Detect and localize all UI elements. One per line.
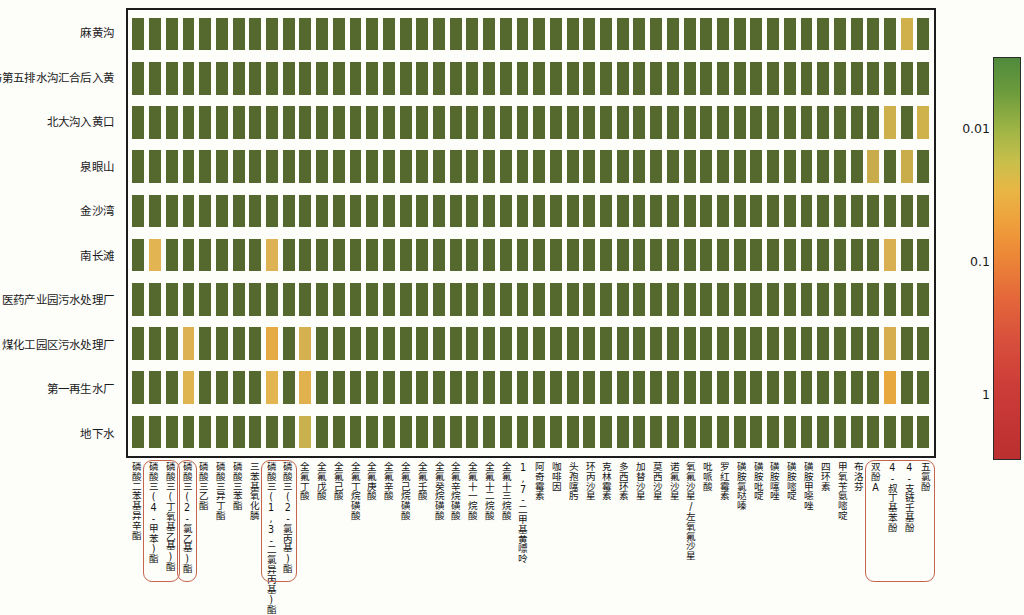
heatmap-cell <box>884 239 896 272</box>
heatmap-cell <box>784 416 796 449</box>
heatmap-cell <box>583 150 595 183</box>
heatmap-cell <box>149 18 161 51</box>
heatmap-cell <box>750 239 762 272</box>
heatmap-cell <box>550 327 562 360</box>
heatmap-cell <box>299 18 311 51</box>
row-label: 医药产业园污水处理厂 <box>0 277 120 322</box>
heatmap-cell <box>433 371 445 404</box>
heatmap-cell <box>383 416 395 449</box>
heatmap-cell <box>884 18 896 51</box>
heatmap-cell <box>233 239 245 272</box>
heatmap-cell <box>567 106 579 139</box>
heatmap-cell <box>216 283 228 316</box>
heatmap-cell <box>249 327 261 360</box>
heatmap-cell <box>483 371 495 404</box>
heatmap-cell <box>567 195 579 228</box>
column-label: 磷酸二苯基异辛酯 <box>132 462 142 540</box>
heatmap-cell <box>316 62 328 95</box>
heatmap-cell <box>700 239 712 272</box>
heatmap-cell <box>784 283 796 316</box>
heatmap-cell <box>583 62 595 95</box>
heatmap-cell <box>283 195 295 228</box>
heatmap-cell <box>199 371 211 404</box>
heatmap-cell <box>450 195 462 228</box>
heatmap-cell <box>550 416 562 449</box>
heatmap-cell <box>366 150 378 183</box>
heatmap-cell <box>550 62 562 95</box>
heatmap-cell <box>834 327 846 360</box>
heatmap-cell <box>901 327 913 360</box>
column-label-axis: 磷酸二苯基异辛酯磷酸三(4-甲苯)酯磷酸三(丁氧基乙基)酯磷酸三(2-氯乙基)酯… <box>126 462 936 592</box>
heatmap-cell <box>400 283 412 316</box>
heatmap-cell <box>901 371 913 404</box>
heatmap-cell <box>834 150 846 183</box>
heatmap-cell <box>884 327 896 360</box>
heatmap-cell <box>299 106 311 139</box>
column-label: 全氟丁烷磺酸 <box>350 462 360 521</box>
heatmap-cell <box>316 150 328 183</box>
heatmap-cell <box>767 371 779 404</box>
heatmap-cell <box>617 371 629 404</box>
heatmap-cell <box>851 371 863 404</box>
heatmap-cell <box>600 106 612 139</box>
heatmap-cell <box>867 106 879 139</box>
heatmap-cell <box>466 62 478 95</box>
heatmap-cell <box>383 283 395 316</box>
heatmap-cell <box>249 195 261 228</box>
heatmap-cell <box>517 283 529 316</box>
heatmap-cell <box>517 239 529 272</box>
heatmap-cell <box>667 150 679 183</box>
heatmap-cell <box>400 62 412 95</box>
heatmap-cell <box>617 150 629 183</box>
heatmap-cell <box>617 416 629 449</box>
heatmap-cell <box>132 150 144 183</box>
heatmap-cell <box>650 416 662 449</box>
heatmap-cell <box>917 371 929 404</box>
heatmap-cell <box>283 283 295 316</box>
heatmap-cell <box>801 195 813 228</box>
heatmap-cell <box>734 371 746 404</box>
heatmap-cell <box>533 106 545 139</box>
heatmap-cell <box>750 283 762 316</box>
heatmap-cell <box>500 106 512 139</box>
heatmap-cell <box>767 106 779 139</box>
heatmap-cell <box>299 239 311 272</box>
heatmap-cell <box>750 327 762 360</box>
column-label: 克林霉素 <box>602 462 612 501</box>
heatmap-cell <box>583 327 595 360</box>
heatmap-cell <box>216 62 228 95</box>
column-label: 全氟庚酸 <box>367 462 377 501</box>
column-label: 头孢噻肟 <box>568 462 578 501</box>
heatmap-cell <box>366 106 378 139</box>
heatmap-cell <box>834 195 846 228</box>
heatmap-cell <box>633 150 645 183</box>
heatmap-cell <box>717 195 729 228</box>
heatmap-cell <box>433 150 445 183</box>
heatmap-cell <box>650 62 662 95</box>
column-label: 双酚A <box>870 462 880 492</box>
heatmap-cell <box>517 327 529 360</box>
heatmap-cell <box>466 106 478 139</box>
heatmap-cell <box>667 327 679 360</box>
heatmap-cell <box>266 283 278 316</box>
heatmap-cell <box>283 150 295 183</box>
heatmap-cell <box>316 416 328 449</box>
column-label: 全氟辛烷磺酸 <box>451 462 461 521</box>
heatmap-cell <box>132 416 144 449</box>
heatmap-cell <box>299 283 311 316</box>
heatmap-cell <box>450 150 462 183</box>
heatmap-cell <box>734 327 746 360</box>
heatmap-cell <box>316 106 328 139</box>
column-label: 莫西沙星 <box>652 462 662 501</box>
heatmap-cell <box>166 283 178 316</box>
heatmap-cell <box>734 416 746 449</box>
heatmap-cell <box>717 239 729 272</box>
heatmap-cell <box>416 416 428 449</box>
heatmap-cell <box>917 283 929 316</box>
heatmap-cell <box>416 283 428 316</box>
heatmap-cell <box>266 18 278 51</box>
heatmap-cell <box>199 195 211 228</box>
heatmap-cell <box>801 371 813 404</box>
heatmap-cell <box>617 239 629 272</box>
heatmap-cell <box>199 18 211 51</box>
